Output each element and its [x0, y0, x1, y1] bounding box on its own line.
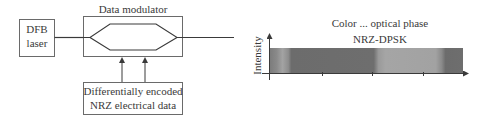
plot-subtitle: NRZ-DPSK — [300, 33, 460, 46]
y-axis-label: Intensity — [251, 31, 264, 81]
data-source-line1: Differentially encoded — [83, 85, 183, 98]
modulator-title: Data modulator — [83, 3, 183, 16]
dfb-label-line2: laser — [19, 37, 55, 50]
data-source-line2: NRZ electrical data — [83, 99, 183, 112]
phase-bar — [269, 48, 463, 73]
plot-title: Color ... optical phase — [300, 17, 460, 30]
mach-zehnder-arms — [83, 24, 183, 50]
dfb-label-line1: DFB — [19, 23, 55, 36]
